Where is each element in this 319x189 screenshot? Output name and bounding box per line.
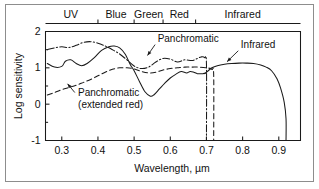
band-label-green: Green: [134, 8, 163, 20]
x-axis-title: Wavelength, µm: [134, 162, 210, 174]
y-tick-label: -1: [31, 134, 40, 146]
x-tick-label: 0.6: [163, 144, 178, 156]
panchromatic-extended-red-label-text-line2: (extended red): [78, 99, 143, 110]
band-label-blue: Blue: [106, 8, 127, 20]
y-tick-label: 2: [35, 25, 41, 37]
x-tick-label: 0.9: [271, 144, 286, 156]
curve-annotations: PanchromaticInfraredPanchromatic(extende…: [68, 33, 276, 111]
band-label-infrared: Infrared: [225, 8, 261, 20]
annotation-panchromatic-extended-red-label: Panchromatic(extended red): [68, 84, 144, 110]
panchromatic-extended-red-label-text-line1: Panchromatic: [78, 87, 139, 98]
y-tick-label: 1: [35, 61, 41, 73]
y-tick-label: 0: [35, 98, 41, 110]
annotation-panchromatic-label: Panchromatic: [148, 33, 219, 56]
panchromatic-label-arrowhead: [148, 51, 152, 56]
x-tick-label: 0.5: [127, 144, 142, 156]
y-axis-title: Log sensitivity: [12, 52, 24, 119]
band-label-red: Red: [170, 8, 189, 20]
x-axis: 0.30.40.50.60.70.80.9 Wavelength, µm: [54, 137, 286, 175]
curve-infrared: [205, 63, 287, 140]
panchromatic-label-text: Panchromatic: [158, 33, 219, 44]
x-tick-label: 0.4: [91, 144, 106, 156]
x-tick-label: 0.7: [199, 144, 214, 156]
top-band-axis: UVBlueGreenRedInfrared: [46, 8, 301, 24]
y-axis: -1012 Log sensitivity: [12, 25, 50, 146]
spectral-sensitivity-chart: UVBlueGreenRedInfrared 0.30.40.50.60.70.…: [0, 0, 319, 189]
band-label-uv: UV: [64, 8, 79, 20]
figure-container: UVBlueGreenRedInfrared 0.30.40.50.60.70.…: [0, 0, 319, 189]
annotation-infrared-label: Infrared: [227, 39, 275, 62]
x-tick-label: 0.3: [54, 144, 69, 156]
infrared-label-text: Infrared: [241, 39, 275, 50]
x-tick-label: 0.8: [235, 144, 250, 156]
